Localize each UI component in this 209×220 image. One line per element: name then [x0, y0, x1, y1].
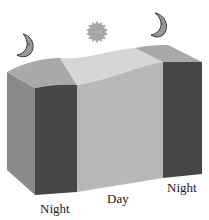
front-face-night-right: [163, 62, 202, 178]
day-night-diagram: Night Day Night: [0, 0, 209, 220]
day-label: Day: [107, 192, 129, 205]
crescent-moon-icon: [17, 34, 33, 57]
front-face-night-left: [35, 85, 77, 195]
night-label-left: Night: [40, 202, 70, 215]
night-label-right: Night: [167, 181, 197, 194]
crescent-moon-icon: [151, 13, 166, 37]
sun-icon: [86, 21, 108, 43]
block-left-side-face: [7, 72, 35, 195]
